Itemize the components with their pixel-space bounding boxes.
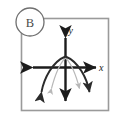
parabola-figure-svg: y x B <box>0 0 115 121</box>
panel-label-text: B <box>26 16 34 30</box>
y-axis-label: y <box>68 25 74 36</box>
panel-label-badge: B <box>16 8 44 36</box>
figure-panel: y x B <box>0 0 115 121</box>
x-axis-label: x <box>98 62 104 73</box>
